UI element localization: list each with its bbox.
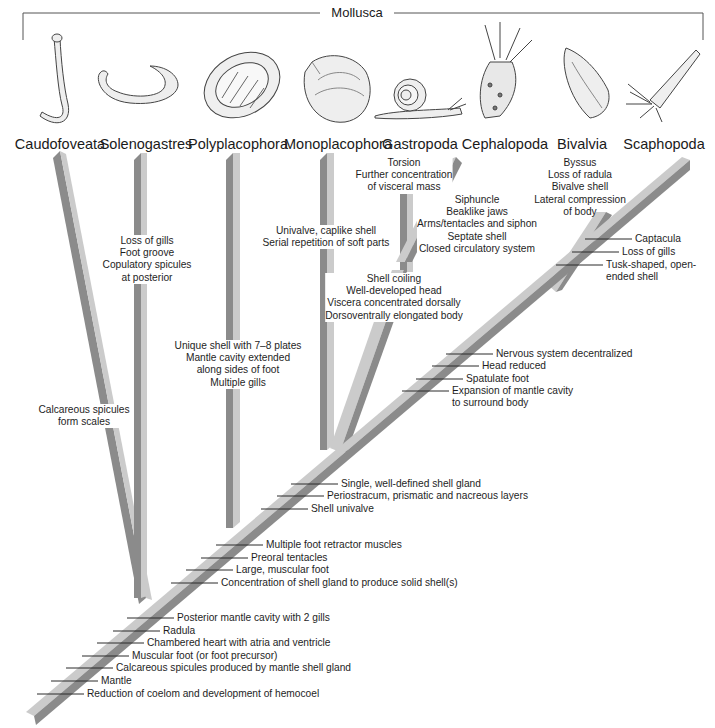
tusk-shell-icon (626, 50, 700, 122)
mollusca-cladogram: Mollusca Caudofoveata Solenogastres Poly… (0, 0, 715, 728)
traits-solenogastres: Loss of gills Foot groove Copulatory spi… (103, 235, 192, 284)
trait-captacula: Captacula (635, 233, 681, 245)
taxon-caudofoveata: Caudofoveata (15, 136, 105, 152)
trait-loss-of-gills: Loss of gills (622, 246, 675, 258)
trait-periostracum: Periostracum, prismatic and nacreous lay… (327, 490, 528, 502)
taxon-gastropoda: Gastropoda (382, 136, 458, 152)
curled-worm-mollusc-icon (98, 66, 178, 104)
trait-chambered-heart: Chambered heart with atria and ventricle (147, 637, 330, 649)
trait-tusk-shaped-shell: Tusk-shaped, open- ended shell (606, 259, 696, 283)
traits-gastropoda: Torsion Further concentration of viscera… (356, 157, 453, 194)
taxon-monoplacophora: Monoplacophora (284, 136, 392, 152)
taxon-polyplacophora: Polyplacophora (188, 136, 288, 152)
trait-mantle-expansion: Expansion of mantle cavity to surround b… (452, 385, 573, 409)
branch-solenogastres (134, 153, 147, 598)
trait-coelom-reduction: Reduction of coelom and development of h… (87, 688, 319, 700)
traits-gastropoda-cephalopoda: Shell coiling Well-developed head Viscer… (325, 273, 463, 322)
chiton-icon (192, 39, 291, 131)
traits-polyplacophora: Unique shell with 7–8 plates Mantle cavi… (175, 340, 302, 389)
trait-mantle: Mantle (101, 675, 132, 687)
traits-caudofoveata: Calcareous spicules form scales (38, 404, 129, 428)
worm-shaped-mollusc-icon (40, 34, 69, 123)
taxon-bivalvia: Bivalvia (557, 136, 607, 152)
trait-shell-gland: Single, well-defined shell gland (341, 478, 481, 490)
traits-monoplacophora: Univalve, caplike shell Serial repetitio… (263, 225, 390, 249)
taxon-scaphopoda: Scaphopoda (623, 136, 704, 152)
trait-muscular-foot-precursor: Muscular foot (or foot precursor) (132, 650, 278, 662)
traits-cephalopoda: Siphuncle Beaklike jaws Arms/tentacles a… (417, 194, 537, 255)
trait-muscular-foot: Large, muscular foot (236, 564, 329, 576)
traits-bivalvia: Byssus Loss of radula Bivalve shell Late… (534, 157, 626, 218)
clam-icon (564, 48, 609, 118)
taxon-solenogastres: Solenogastres (100, 136, 193, 152)
cladogram-branches (0, 0, 715, 728)
snail-icon (375, 79, 466, 119)
trait-shell-univalve: Shell univalve (311, 503, 374, 515)
clade-title: Mollusca (327, 5, 386, 20)
cap-shell-icon (304, 56, 370, 123)
trait-posterior-mantle-cavity: Posterior mantle cavity with 2 gills (177, 612, 330, 624)
trait-preoral-tentacles: Preoral tentacles (251, 552, 327, 564)
trait-shell-gland-concentration: Concentration of shell gland to produce … (221, 577, 458, 589)
taxon-cephalopoda: Cephalopoda (462, 136, 548, 152)
trait-foot-retractor: Multiple foot retractor muscles (266, 539, 402, 551)
trait-calcareous-spicules: Calcareous spicules produced by mantle s… (116, 662, 351, 674)
trait-radula: Radula (163, 625, 195, 637)
trait-head-reduced: Head reduced (482, 360, 546, 372)
trait-nervous-system: Nervous system decentralized (496, 348, 632, 360)
squid-icon (480, 22, 532, 118)
trait-spatulate-foot: Spatulate foot (466, 373, 529, 385)
